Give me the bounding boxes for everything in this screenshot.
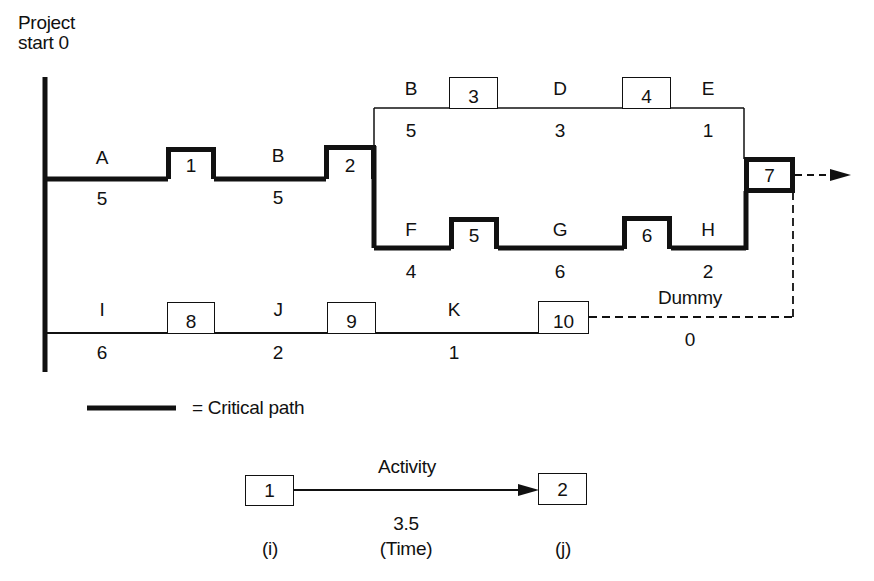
node-10: 10 [538, 301, 589, 334]
legend-activity-arrowhead [518, 484, 539, 496]
legend-from-caption: (i) [262, 539, 278, 558]
activity-k-name: K [448, 300, 460, 319]
activity-j-name: J [273, 300, 282, 319]
node-7: 7 [744, 157, 795, 193]
activity-g-name: G [553, 220, 567, 239]
project-start-label-line1: Project [18, 13, 75, 33]
activity-e-name: E [702, 79, 714, 98]
activity-d-name: D [553, 79, 566, 98]
node-1: 1 [166, 147, 216, 179]
legend-node-i: 1 [245, 475, 294, 506]
project-start-label: Project start 0 [18, 13, 75, 53]
activity-i-time: 6 [97, 343, 107, 362]
activity-i-name: I [100, 300, 105, 319]
dummy-activity-time: 0 [685, 330, 695, 349]
activity-b2-time: 5 [406, 121, 416, 140]
dummy-activity-name: Dummy [658, 288, 722, 307]
activity-h-time: 2 [703, 262, 713, 281]
activity-j-time: 2 [273, 343, 283, 362]
legend-time-value: 3.5 [393, 514, 419, 533]
node-5: 5 [449, 217, 499, 249]
legend-critical-path-label: = Critical path [192, 398, 304, 418]
activity-b-name: B [272, 146, 284, 165]
activity-f-time: 4 [406, 262, 416, 281]
node-6: 6 [622, 216, 672, 249]
activity-g-time: 6 [555, 262, 565, 281]
legend-to-caption: (j) [555, 539, 571, 558]
project-start-label-line2: start 0 [18, 33, 75, 53]
activity-h-name: H [701, 220, 714, 239]
network-lines [0, 0, 874, 581]
node-3: 3 [449, 77, 498, 109]
activity-d-time: 3 [555, 121, 565, 140]
activity-f-name: F [405, 220, 416, 239]
node-9: 9 [327, 302, 376, 334]
activity-b-time: 5 [273, 188, 283, 207]
node-2: 2 [324, 145, 376, 179]
activity-e-time: 1 [703, 121, 713, 140]
legend-time-label: (Time) [380, 539, 432, 558]
activity-a-name: A [96, 148, 108, 167]
activity-a-time: 5 [97, 189, 107, 208]
project-end-arrowhead [830, 169, 851, 181]
node-4: 4 [622, 77, 671, 109]
legend-node-j: 2 [538, 473, 587, 505]
legend-activity-label: Activity [378, 457, 436, 476]
activity-k-time: 1 [449, 343, 459, 362]
node-8: 8 [167, 302, 215, 334]
activity-b2-name: B [405, 79, 417, 98]
